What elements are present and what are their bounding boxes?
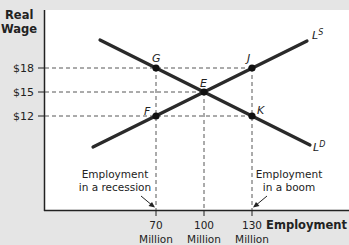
x-tick-label-130: 130 — [242, 219, 262, 231]
label-k: K — [257, 104, 265, 117]
y-axis-title-line1: Real — [5, 8, 33, 22]
boom-annotation-line1: Employment — [256, 168, 323, 180]
y-tick-label-15: $15 — [13, 86, 34, 99]
boom-annotation-line2: in a boom — [263, 181, 315, 193]
point-j — [248, 64, 255, 71]
recession-annotation-line2: in a recession — [79, 181, 151, 193]
y-tick-label-12: $12 — [13, 110, 34, 123]
label-g: G — [152, 52, 161, 65]
labor-market-chart: G J E F K LS LD Real Wage $18 $15 $12 70… — [0, 0, 349, 245]
x-tick-label-70: 70 — [149, 219, 162, 231]
label-e: E — [200, 77, 207, 90]
point-k — [248, 112, 255, 119]
y-tick-label-18: $18 — [13, 62, 34, 75]
x-tick-unit-130: Million — [235, 233, 269, 245]
recession-annotation-line1: Employment — [82, 168, 149, 180]
x-axis-title: Employment — [266, 218, 347, 232]
point-g — [152, 64, 159, 71]
label-f: F — [144, 105, 151, 118]
plot-area — [45, 10, 349, 210]
x-tick-unit-100: Million — [187, 233, 221, 245]
point-f — [152, 112, 159, 119]
y-axis-title-line2: Wage — [1, 22, 37, 36]
x-tick-unit-70: Million — [139, 233, 173, 245]
x-tick-label-100: 100 — [194, 219, 214, 231]
